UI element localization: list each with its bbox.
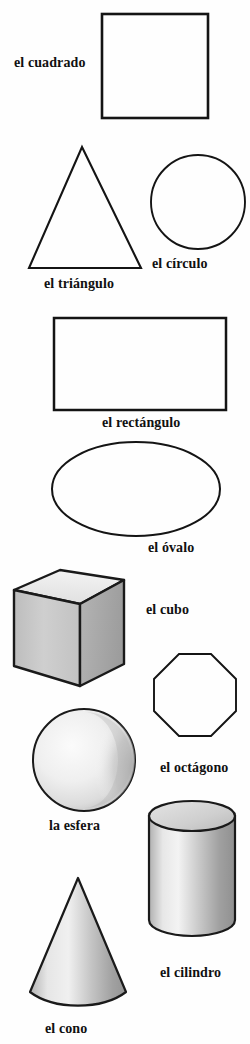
figure-square xyxy=(100,12,212,122)
label-cube: el cubo xyxy=(146,602,189,618)
figure-cube xyxy=(8,566,130,692)
figure-sphere xyxy=(30,706,138,814)
label-square: el cuadrado xyxy=(14,55,86,71)
label-cylinder: el cilindro xyxy=(160,965,221,981)
label-oval: el óvalo xyxy=(148,540,194,556)
label-triangle: el triángulo xyxy=(44,276,114,292)
label-rectangle: el rectángulo xyxy=(102,415,180,431)
figure-rectangle xyxy=(52,316,228,412)
figure-circle xyxy=(148,152,248,252)
figure-triangle xyxy=(24,142,146,274)
figure-octagon xyxy=(152,652,238,738)
figure-cone xyxy=(22,874,134,1018)
figure-cylinder xyxy=(146,798,238,938)
figure-oval xyxy=(50,440,222,538)
label-circle: el círculo xyxy=(152,256,208,272)
label-cone: el cono xyxy=(45,1021,87,1037)
label-sphere: la esfera xyxy=(49,818,100,834)
label-octagon: el octágono xyxy=(160,760,228,776)
illustration-sheet: el cuadrado el triángulo el círculo el r… xyxy=(0,0,250,1044)
